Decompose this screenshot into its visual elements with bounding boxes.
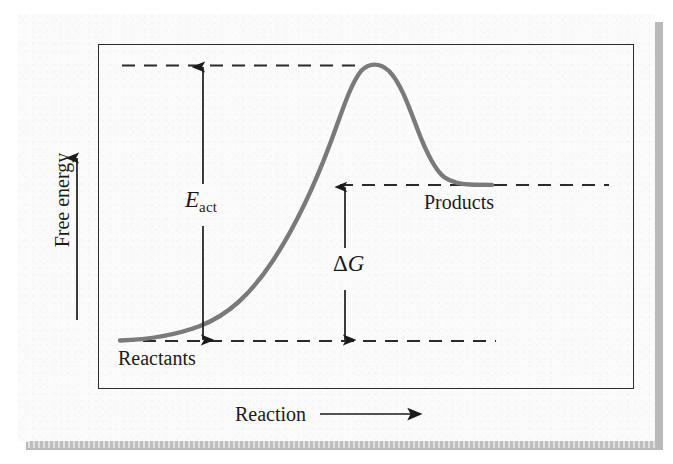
figure-root: Reactants Products Eact ΔG Free energy R…: [0, 0, 673, 464]
free-energy-change-symbol: G: [348, 251, 365, 276]
chart-overlay: [0, 0, 673, 464]
x-axis-label: Reaction: [235, 404, 306, 424]
delta-symbol: Δ: [333, 251, 348, 276]
activation-energy-label: Eact: [182, 186, 220, 217]
free-energy-change-label: ΔG: [330, 250, 367, 277]
y-axis-label: Free energy: [52, 130, 72, 270]
reactants-label: Reactants: [118, 348, 196, 368]
products-label: Products: [424, 192, 494, 212]
activation-energy-subscript: act: [199, 199, 217, 215]
activation-energy-symbol: E: [185, 187, 199, 212]
